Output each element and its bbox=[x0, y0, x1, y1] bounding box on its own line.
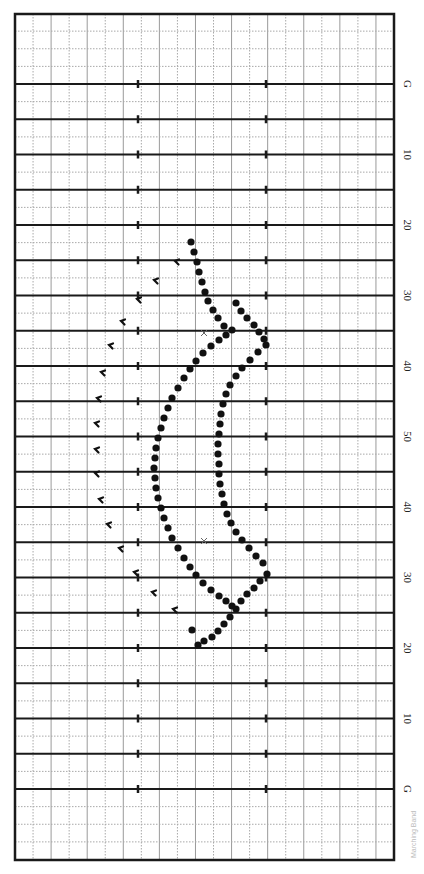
yard-label: 10 bbox=[402, 149, 414, 161]
performer-dot bbox=[216, 480, 223, 487]
performer-dot bbox=[160, 414, 167, 421]
performer-dot bbox=[192, 357, 199, 364]
performer-dot bbox=[243, 590, 250, 597]
performer-dot bbox=[157, 504, 164, 511]
performer-dot bbox=[232, 605, 239, 612]
performer-dot bbox=[186, 365, 193, 372]
yard-label: 40 bbox=[402, 502, 414, 514]
performer-dot bbox=[232, 528, 239, 535]
performer-dot bbox=[222, 597, 229, 604]
hook-mark-icon bbox=[95, 472, 99, 477]
performer-dot bbox=[214, 314, 221, 321]
hook-mark-icon bbox=[175, 260, 179, 265]
hook-mark-icon bbox=[137, 298, 141, 303]
performer-dot bbox=[220, 500, 227, 507]
hook-mark-icon bbox=[95, 448, 99, 453]
hook-mark-icon bbox=[109, 344, 113, 349]
performer-dot bbox=[164, 404, 171, 411]
performer-dot bbox=[190, 248, 197, 255]
performer-dot bbox=[154, 434, 161, 441]
performer-dot bbox=[198, 278, 205, 285]
performer-dot bbox=[237, 597, 244, 604]
performer-dot bbox=[219, 400, 226, 407]
performer-dot bbox=[238, 364, 245, 371]
yard-label: G bbox=[402, 785, 414, 793]
performer-dot bbox=[154, 494, 161, 501]
performer-dot bbox=[226, 613, 233, 620]
yard-label: 20 bbox=[402, 220, 414, 232]
performer-dot bbox=[157, 424, 164, 431]
performer-dot bbox=[201, 288, 208, 295]
performer-dot bbox=[194, 641, 201, 648]
performer-dot bbox=[151, 474, 158, 481]
performer-dot bbox=[222, 390, 229, 397]
performer-dot bbox=[215, 336, 222, 343]
performer-dot bbox=[232, 372, 239, 379]
performer-dot bbox=[216, 420, 223, 427]
hook-mark-icon bbox=[121, 320, 125, 325]
performer-dot bbox=[256, 577, 263, 584]
performer-dot bbox=[263, 570, 270, 577]
performer-dot bbox=[180, 554, 187, 561]
drill-chart: G102030405040302010G Marching Band bbox=[0, 0, 424, 874]
performer-dot bbox=[192, 571, 199, 578]
performer-dot bbox=[215, 460, 222, 467]
performer-dot bbox=[207, 342, 214, 349]
footer-text: Marching Band bbox=[410, 811, 418, 858]
hook-mark-icon bbox=[107, 523, 111, 528]
performer-dot bbox=[186, 563, 193, 570]
performer-dot bbox=[209, 306, 216, 313]
hook-mark-icon bbox=[134, 571, 138, 576]
performer-dot bbox=[238, 536, 245, 543]
yard-lines bbox=[15, 84, 394, 789]
performer-dot bbox=[232, 299, 239, 306]
yard-label: 30 bbox=[402, 290, 414, 302]
performer-dot bbox=[254, 348, 261, 355]
performer-dot bbox=[214, 440, 221, 447]
performer-dot bbox=[227, 519, 234, 526]
hook-mark-icon bbox=[152, 591, 156, 596]
performer-dot bbox=[237, 307, 244, 314]
yard-label: 40 bbox=[402, 361, 414, 373]
performer-dot bbox=[259, 559, 266, 566]
hook-mark-icon bbox=[99, 498, 103, 503]
performer-dot bbox=[188, 626, 195, 633]
yard-label: 30 bbox=[402, 572, 414, 584]
performer-dot bbox=[246, 356, 253, 363]
performer-dot bbox=[245, 544, 252, 551]
performer-dot bbox=[250, 584, 257, 591]
performer-dot bbox=[152, 484, 159, 491]
performer-dot bbox=[215, 592, 222, 599]
performer-dot bbox=[152, 444, 159, 451]
performer-dot bbox=[214, 627, 221, 634]
hook-mark-icon bbox=[95, 422, 99, 427]
performer-dot bbox=[160, 514, 167, 521]
yard-label: 20 bbox=[402, 643, 414, 655]
performer-dot bbox=[187, 238, 194, 245]
yard-label: 50 bbox=[402, 431, 414, 443]
hook-mark-icon bbox=[154, 279, 158, 284]
performer-dot bbox=[218, 490, 225, 497]
performer-dot bbox=[215, 430, 222, 437]
performer-dot bbox=[151, 454, 158, 461]
performer-dot bbox=[215, 470, 222, 477]
performer-dot bbox=[204, 297, 211, 304]
performer-dot bbox=[262, 341, 269, 348]
performer-dot bbox=[168, 394, 175, 401]
performer-dot bbox=[168, 534, 175, 541]
hook-mark-icon bbox=[101, 371, 105, 376]
performer-dot bbox=[193, 258, 200, 265]
performer-dot bbox=[220, 620, 227, 627]
performer-dot bbox=[217, 410, 224, 417]
performer-dot bbox=[164, 524, 171, 531]
hook-mark-icon bbox=[119, 547, 123, 552]
performer-dot bbox=[150, 464, 157, 471]
performer-dot bbox=[214, 450, 221, 457]
performer-dot bbox=[228, 326, 235, 333]
performer-dot bbox=[174, 384, 181, 391]
performer-dot bbox=[226, 381, 233, 388]
performer-dot bbox=[250, 321, 257, 328]
performer-dot bbox=[222, 331, 229, 338]
performer-dot bbox=[252, 552, 259, 559]
performer-dot bbox=[207, 586, 214, 593]
